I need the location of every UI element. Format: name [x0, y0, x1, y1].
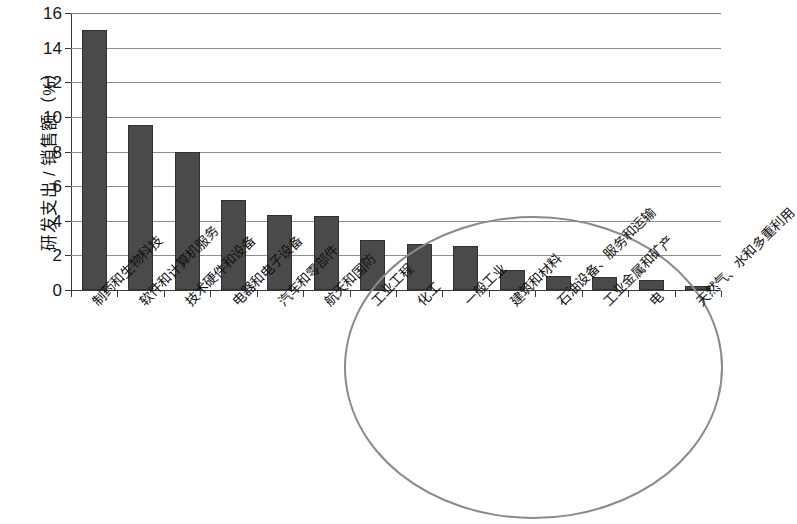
- x-tick-mark: [71, 291, 72, 297]
- x-tick-mark: [210, 291, 211, 297]
- y-tick-label: 16: [36, 5, 62, 22]
- y-axis-tick-labels: 1614121086420: [36, 0, 62, 300]
- x-tick-mark: [117, 291, 118, 297]
- y-tick-mark: [65, 186, 71, 187]
- x-axis-category-label: 电: [647, 290, 666, 309]
- x-tick-mark: [164, 291, 165, 297]
- x-tick-mark: [535, 291, 536, 297]
- x-tick-mark: [489, 291, 490, 297]
- gridline: [71, 117, 721, 118]
- gridline: [71, 186, 721, 187]
- y-tick-label: 2: [36, 247, 62, 264]
- gridline: [71, 152, 721, 153]
- gridline: [71, 13, 721, 14]
- x-tick-mark: [350, 291, 351, 297]
- y-tick-label: 10: [36, 109, 62, 126]
- y-tick-mark: [65, 13, 71, 14]
- y-tick-mark: [65, 221, 71, 222]
- y-tick-label: 12: [36, 74, 62, 91]
- y-tick-mark: [65, 82, 71, 83]
- x-tick-mark: [303, 291, 304, 297]
- gridline: [71, 221, 721, 222]
- bar: [82, 30, 107, 290]
- y-tick-mark: [65, 117, 71, 118]
- y-tick-mark: [65, 255, 71, 256]
- x-tick-mark: [257, 291, 258, 297]
- y-tick-label: 8: [36, 144, 62, 161]
- y-tick-label: 4: [36, 213, 62, 230]
- x-tick-mark: [628, 291, 629, 297]
- y-tick-mark: [65, 152, 71, 153]
- y-tick-mark: [65, 48, 71, 49]
- gridline: [71, 82, 721, 83]
- y-tick-label: 6: [36, 178, 62, 195]
- x-tick-mark: [675, 291, 676, 297]
- x-tick-mark: [442, 291, 443, 297]
- gridline: [71, 48, 721, 49]
- x-tick-mark: [582, 291, 583, 297]
- gridline: [71, 255, 721, 256]
- x-tick-mark: [721, 291, 722, 297]
- y-tick-label: 14: [36, 40, 62, 57]
- bar: [639, 280, 664, 290]
- y-tick-label: 0: [36, 282, 62, 299]
- x-tick-mark: [396, 291, 397, 297]
